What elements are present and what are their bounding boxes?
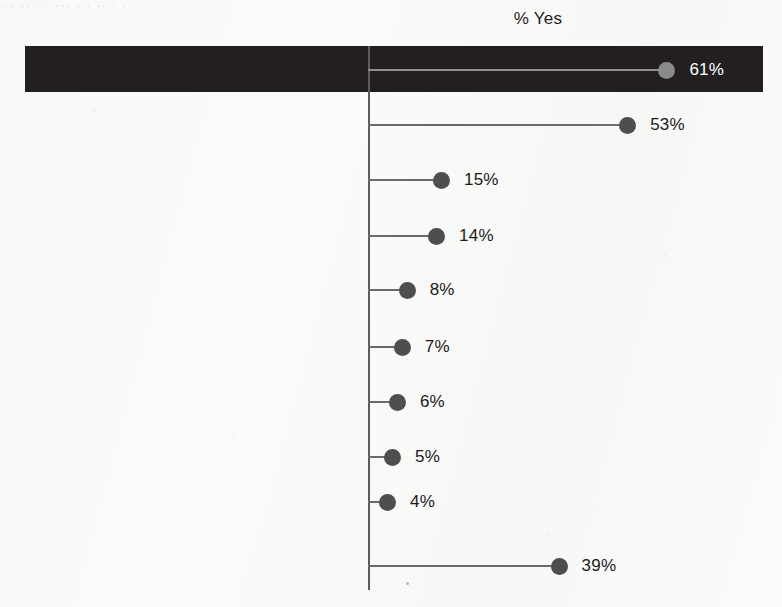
value-axis-line [368, 46, 370, 590]
row-marker-dot [379, 494, 396, 511]
row-value-label: 8% [430, 280, 455, 300]
row-value-label: 15% [464, 170, 499, 190]
row-value-label: 4% [410, 492, 435, 512]
row-marker-dot [399, 282, 416, 299]
row-stem [368, 124, 628, 126]
row-value-label: 5% [415, 447, 440, 467]
row-stem [368, 235, 437, 237]
row-marker-dot [551, 558, 568, 575]
row-marker-dot [394, 339, 411, 356]
row-value-label: 53% [650, 115, 685, 135]
row-marker-dot [433, 172, 450, 189]
row-marker-dot [619, 117, 636, 134]
row-value-label: 6% [420, 392, 445, 412]
row-stem [368, 69, 667, 71]
row-marker-dot [384, 449, 401, 466]
row-value-label: 14% [459, 226, 494, 246]
row-value-label: 39% [582, 556, 617, 576]
row-value-label: 7% [425, 337, 450, 357]
row-value-label: 61% [689, 60, 724, 80]
scan-artifact-speck [406, 582, 409, 585]
axis-title: % Yes [368, 9, 708, 29]
row-stem [368, 565, 559, 567]
row-marker-dot [658, 62, 675, 79]
row-marker-dot [428, 228, 445, 245]
lollipop-chart: · · ·· · · ··· · · ·· · · % Yes Any of t… [0, 0, 782, 607]
row-stem [368, 179, 442, 181]
row-marker-dot [389, 394, 406, 411]
